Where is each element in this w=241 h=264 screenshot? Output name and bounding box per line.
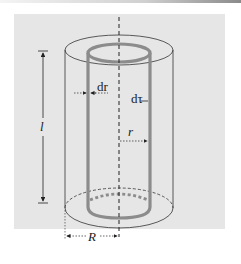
thickness-label: dr bbox=[97, 79, 109, 94]
volume-element-label: dτ bbox=[131, 91, 143, 106]
outer-radius-label: R bbox=[87, 229, 96, 244]
cylinder-diagram: l dr dτ r R bbox=[0, 0, 241, 264]
shell-radius-label: r bbox=[128, 124, 134, 139]
length-label: l bbox=[40, 119, 44, 134]
